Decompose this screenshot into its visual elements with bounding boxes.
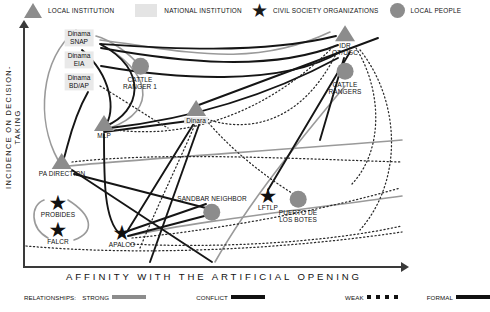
- node-label: PROBIDES: [41, 210, 75, 217]
- edge-strong: [215, 86, 345, 262]
- triangle-icon: [186, 100, 206, 116]
- node-dinama-eia[interactable]: Dinama EIA: [65, 51, 94, 68]
- legend-relationship-types: RELATIONSHIPS: STRONG CONFLICT WEAK FORM…: [24, 290, 412, 304]
- star-icon: ★: [113, 225, 132, 240]
- node-label: PA DIRECTION: [39, 170, 86, 177]
- node-label: LFTLP: [258, 203, 278, 210]
- node-sandbar-neighbor[interactable]: SANDBAR NEIGHBOR: [177, 195, 247, 221]
- node-label: MLP: [97, 132, 111, 139]
- node-pa-direction[interactable]: PA DIRECTION: [39, 153, 86, 177]
- node-idr-ot-ugc[interactable]: IDR OT/UGC: [332, 25, 358, 56]
- node-label: PUERTO DE LOS BOTES: [279, 208, 318, 223]
- legend-label-conflict: CONFLICT: [196, 294, 228, 301]
- circle-icon: [203, 204, 220, 221]
- node-lftlp[interactable]: ★ LFTLP: [258, 188, 278, 211]
- node-label: IDR OT/UGC: [332, 42, 358, 57]
- node-dinara[interactable]: Dinara: [184, 100, 208, 124]
- legend-item-formal: FORMAL: [427, 294, 490, 301]
- edge-strong: [68, 140, 402, 166]
- legend-label-strong: STRONG: [82, 294, 109, 301]
- edge-conflict: [150, 122, 200, 262]
- triangle-icon: [335, 25, 355, 41]
- edge-weak: [360, 50, 392, 230]
- node-label: Dinara: [184, 117, 208, 124]
- legend-label-formal: FORMAL: [427, 294, 453, 301]
- circle-icon: [132, 58, 149, 75]
- legend-label-local-people: LOCAL PEOPLE: [411, 7, 462, 14]
- triangle-icon: [52, 153, 72, 169]
- node-label: APALCO: [109, 240, 136, 247]
- node-falcr[interactable]: ★ FALCR: [47, 222, 68, 245]
- edge-strong: [44, 30, 76, 160]
- circle-icon: [336, 63, 353, 80]
- legend-item-conflict: CONFLICT: [196, 294, 265, 301]
- triangle-icon: [94, 115, 114, 131]
- node-label: CATTLE RANGERS: [329, 80, 362, 95]
- circle-icon: [290, 191, 307, 208]
- strong-line-swatch: [112, 295, 146, 299]
- star-icon: ★: [49, 222, 68, 237]
- node-probides[interactable]: ★ PROBIDES: [41, 195, 75, 218]
- node-dinama-bdap[interactable]: Dinama BD/AP: [65, 73, 94, 90]
- node-mlp[interactable]: MLP: [94, 115, 114, 139]
- legend-relationships-title: RELATIONSHIPS:: [24, 294, 76, 301]
- weak-line-swatch: [367, 295, 401, 299]
- node-label: FALCR: [47, 237, 68, 244]
- node-cattle-ranger-1[interactable]: CATTLE RANGER 1: [123, 58, 157, 90]
- star-icon: ★: [49, 195, 68, 210]
- node-label: SANDBAR NEIGHBOR: [177, 195, 247, 202]
- node-cattle-rangers[interactable]: CATTLE RANGERS: [329, 63, 362, 95]
- node-dinama-snap[interactable]: Dinama SNAP: [65, 29, 94, 46]
- node-puerto-de-los-botes[interactable]: PUERTO DE LOS BOTES: [279, 191, 318, 223]
- formal-line-swatch: [456, 295, 490, 299]
- node-apalco[interactable]: ★ APALCO: [109, 225, 136, 248]
- edge-conflict: [101, 36, 336, 49]
- edge-conflict: [64, 92, 88, 158]
- node-label: CATTLE RANGER 1: [123, 75, 157, 90]
- legend-item-strong: STRONG: [82, 294, 146, 301]
- star-icon: ★: [259, 188, 278, 203]
- legend-item-weak: WEAK: [345, 294, 401, 301]
- conflict-line-swatch: [231, 295, 265, 299]
- legend-label-weak: WEAK: [345, 294, 364, 301]
